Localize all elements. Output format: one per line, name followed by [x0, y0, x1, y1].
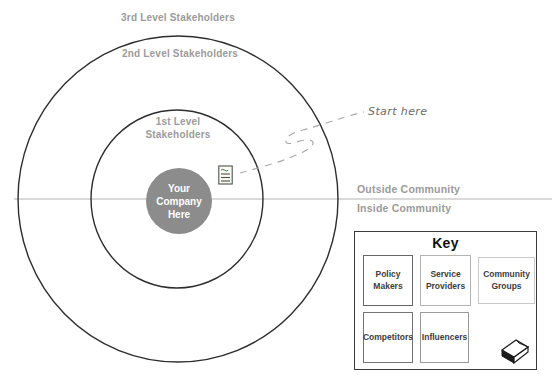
key-panel: Key Policy Makers Service Providers Comm… [354, 231, 537, 370]
key-item-service-providers: Service Providers [420, 255, 471, 306]
start-here-connector [240, 112, 364, 173]
key-item-label: Competitors [363, 332, 413, 343]
inside-community-label: Inside Community [357, 202, 451, 214]
key-item-label: Service Providers [423, 269, 468, 292]
stakeholder-map: 3rd Level Stakeholders 2nd Level Stakeho… [0, 0, 552, 383]
ring-label-2nd-level: 2nd Level Stakeholders [122, 48, 238, 59]
ring-label-3rd-level: 3rd Level Stakeholders [121, 12, 235, 23]
key-item-community-groups: Community Groups [478, 257, 535, 304]
key-title: Key [432, 235, 459, 251]
key-item-competitors: Competitors [363, 312, 413, 363]
key-item-label: Influencers [422, 332, 467, 343]
key-item-policy-makers: Policy Makers [363, 255, 413, 306]
key-item-label: Community Groups [481, 269, 532, 292]
memo-icon [218, 165, 233, 185]
notes-stack-icon [498, 334, 532, 366]
outside-community-label: Outside Community [357, 183, 460, 195]
start-here-label: Start here [368, 105, 427, 118]
ring-label-1st-level: 1st Level Stakeholders [136, 115, 220, 141]
key-item-influencers: Influencers [420, 312, 469, 363]
key-item-label: Policy Makers [366, 269, 410, 292]
company-label: Your Company Here [148, 182, 210, 221]
